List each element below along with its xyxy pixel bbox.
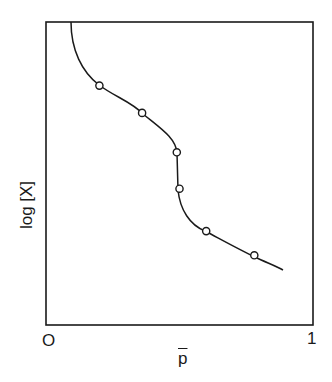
data-point-marker: [176, 185, 183, 192]
data-point-marker: [173, 149, 180, 156]
y-axis-label: log [X]: [17, 181, 37, 229]
x-tick-max: 1: [307, 330, 316, 347]
data-curve: [71, 22, 283, 270]
data-point-marker: [96, 82, 103, 89]
axes-frame: [46, 22, 313, 325]
chart-plot: [0, 0, 332, 382]
x-tick-origin: O: [42, 332, 55, 349]
data-point-marker: [139, 109, 146, 116]
data-point-marker: [203, 228, 210, 235]
x-axis-label: p: [178, 350, 187, 367]
data-point-marker: [251, 252, 258, 259]
